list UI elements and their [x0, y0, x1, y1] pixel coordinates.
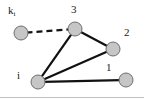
node-label-ki-text: k [8, 4, 14, 16]
graph-edge-ni-n1 [44, 80, 121, 82]
graph-diagram: ki321i [0, 0, 144, 99]
graph-edge-n3-n2 [80, 32, 108, 47]
graph-node-n3 [68, 22, 82, 36]
node-label-ki: ki [8, 5, 15, 16]
graph-edge-ki-n3 [26, 29, 69, 32]
graph-node-ni [31, 75, 45, 89]
node-label-n3: 3 [71, 4, 77, 15]
graph-edge-ni-n2 [43, 51, 108, 80]
graph-node-ki [14, 26, 28, 40]
graph-edge-ni-n3 [41, 34, 72, 78]
graph-node-n2 [106, 42, 120, 56]
node-label-n1: 1 [106, 62, 112, 73]
graph-node-n1 [119, 73, 133, 87]
node-label-ni: i [17, 70, 20, 81]
node-label-n2: 2 [124, 27, 130, 38]
edge-layer [26, 29, 120, 81]
